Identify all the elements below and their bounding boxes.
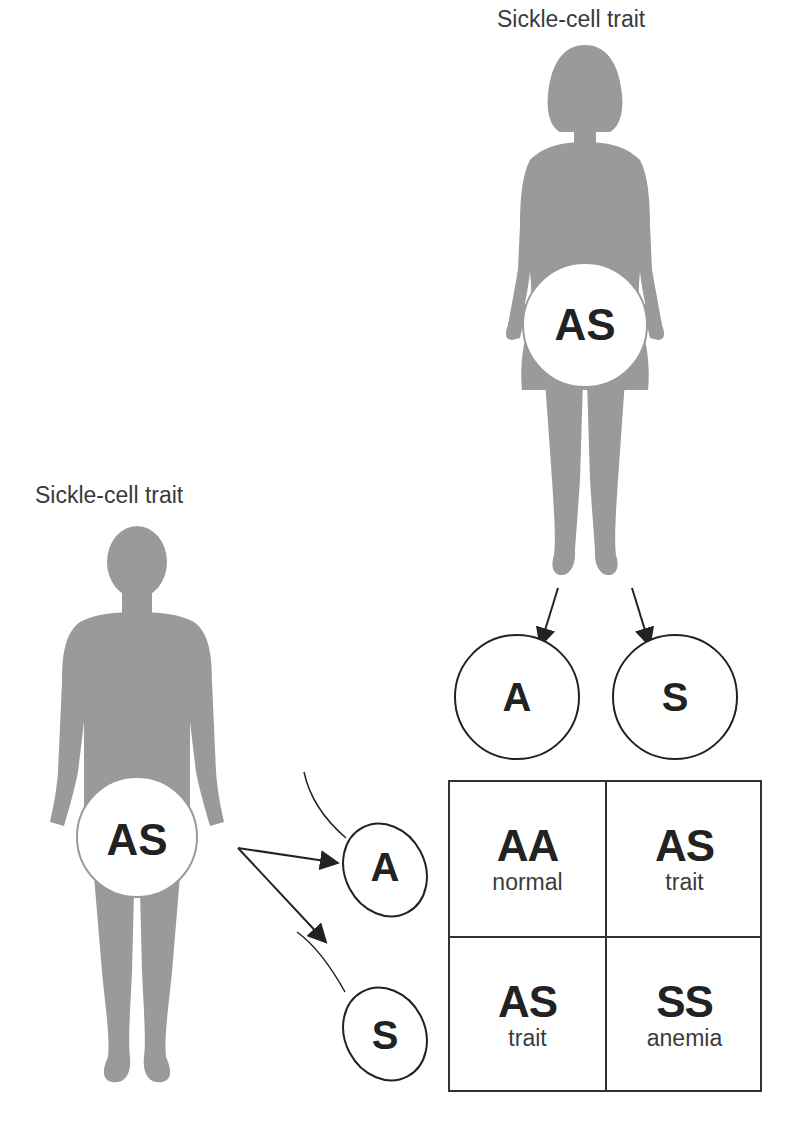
punnett-cell-as-top: AS trait (607, 782, 762, 937)
cell-genotype: AS (655, 824, 714, 868)
father-label: Sickle-cell trait (35, 482, 183, 509)
egg-a-label: A (452, 675, 582, 720)
sperm-s-label: S (345, 1013, 425, 1058)
sperm-a-label: A (345, 845, 425, 890)
sperm-s-icon (295, 930, 440, 1090)
punnett-cell-ss: SS anemia (607, 938, 762, 1093)
cell-phenotype: normal (492, 870, 562, 895)
egg-s-label: S (610, 675, 740, 720)
cell-phenotype: trait (665, 870, 703, 895)
cell-genotype: AA (497, 824, 559, 868)
cell-genotype: AS (498, 980, 557, 1024)
male-silhouette-icon (30, 522, 240, 1097)
punnett-square: AA normal AS trait AS trait SS anemia (448, 780, 762, 1092)
cell-genotype: SS (656, 980, 713, 1024)
punnett-cell-aa: AA normal (450, 782, 605, 937)
cell-phenotype: anemia (647, 1026, 722, 1051)
mother-label: Sickle-cell trait (497, 6, 645, 33)
father-genotype: AS (77, 815, 197, 865)
cell-phenotype: trait (508, 1026, 546, 1051)
mother-genotype: AS (525, 300, 645, 350)
punnett-cell-as-bottom: AS trait (450, 938, 605, 1093)
